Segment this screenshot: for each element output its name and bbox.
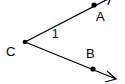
point-b (90, 66, 95, 71)
angle-diagram: A B C 1 (0, 0, 125, 84)
label-b: B (86, 46, 95, 61)
point-a (91, 2, 96, 7)
label-c: C (6, 44, 15, 59)
vertex-point-c (23, 40, 28, 45)
label-a: A (96, 9, 105, 24)
angle-label: 1 (52, 27, 59, 41)
ray-cb (25, 42, 116, 82)
